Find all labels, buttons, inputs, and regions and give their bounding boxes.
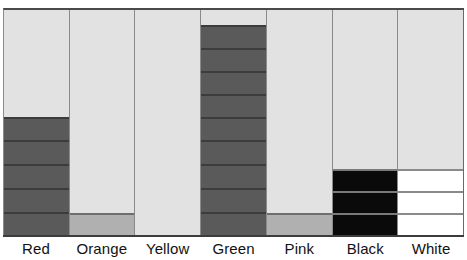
bar-segment: [4, 188, 69, 212]
x-axis-label-green: Green: [201, 238, 267, 260]
bar-segment: [398, 169, 463, 191]
x-axis-label-white: White: [398, 238, 464, 260]
bar-segment: [70, 213, 135, 236]
chart-title: [0, 0, 467, 6]
bar-stack-orange: [70, 213, 135, 236]
bar-column-black[interactable]: [333, 10, 399, 236]
bar-stack-white: [398, 169, 463, 236]
bar-segment: [333, 169, 398, 191]
x-axis-labels: Red Orange Yellow Green Pink Black White: [3, 238, 464, 260]
bar-segment: [201, 71, 266, 94]
x-axis-label-pink: Pink: [266, 238, 332, 260]
bar-column-yellow[interactable]: [135, 10, 201, 236]
x-axis-label-yellow: Yellow: [135, 238, 201, 260]
bar-segment: [201, 188, 266, 212]
bar-segment: [201, 212, 266, 236]
bar-segment: [201, 48, 266, 71]
chart-figure: Red Orange Yellow Green Pink Black White: [0, 0, 467, 260]
bar-segment: [201, 117, 266, 140]
x-axis-label-orange: Orange: [69, 238, 135, 260]
plot-area: [3, 8, 464, 236]
bar-column-white[interactable]: [398, 10, 464, 236]
bar-segment: [201, 25, 266, 48]
bar-segment: [201, 94, 266, 117]
bar-segment: [398, 191, 463, 213]
bar-segment: [267, 213, 332, 236]
x-axis-label-red: Red: [3, 238, 69, 260]
x-axis-label-black: Black: [332, 238, 398, 260]
bar-segment: [333, 191, 398, 213]
bar-column-pink[interactable]: [267, 10, 333, 236]
bar-segment: [333, 213, 398, 236]
bar-stack-black: [333, 169, 398, 236]
bar-stack-red: [4, 117, 69, 236]
bar-segment: [201, 164, 266, 188]
bar-segment: [201, 140, 266, 164]
bar-stack-pink: [267, 213, 332, 236]
bar-segment: [4, 212, 69, 236]
bar-segment: [4, 117, 69, 140]
bar-stack-green: [201, 25, 266, 236]
bar-column-orange[interactable]: [70, 10, 136, 236]
x-axis-line: [3, 235, 464, 237]
bar-column-green[interactable]: [201, 10, 267, 236]
bar-segment: [4, 140, 69, 164]
bar-segment: [398, 213, 463, 236]
bar-segment: [4, 164, 69, 188]
bar-column-red[interactable]: [4, 10, 70, 236]
